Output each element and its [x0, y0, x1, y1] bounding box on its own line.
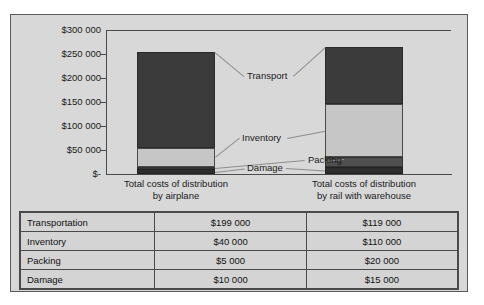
table-cell-rail-cost: $20 000 [306, 251, 457, 270]
table-row: Damage$10 000$15 000 [21, 270, 458, 289]
y-tick-label: $150 000 [23, 97, 101, 106]
table-row: Inventory$40 000$110 000 [21, 232, 458, 251]
callout-inventory: Inventory [242, 133, 281, 143]
bar-segment-packing [137, 167, 215, 169]
callout-damage: Damage [247, 163, 283, 173]
bar-segment-inventory [325, 104, 403, 157]
bar-column [325, 30, 403, 174]
table-cell-airplane-cost: $10 000 [155, 270, 306, 289]
stacked-bar-chart: $300 000$250 000$200 000$150 000$100 000… [11, 15, 469, 201]
table-row: Packing$5 000$20 000 [21, 251, 458, 270]
bar-column [137, 30, 215, 174]
table-cell-rail-cost: $110 000 [306, 232, 457, 251]
callout-transport: Transport [247, 71, 287, 81]
category-label-airplane-line1: Total costs of distribution [91, 178, 261, 190]
category-label-rail: Total costs of distribution by rail with… [279, 178, 449, 202]
bar-segment-damage [137, 169, 215, 174]
table-cell-rail-cost: $15 000 [306, 270, 457, 289]
chart-figure-panel: $300 000$250 000$200 000$150 000$100 000… [10, 14, 468, 292]
table-row: Transportation$199 000$119 000 [21, 213, 458, 232]
callout-packing: Packing [308, 155, 342, 165]
table-cell-airplane-cost: $40 000 [155, 232, 306, 251]
y-tick-label: $50 000 [23, 145, 101, 154]
y-tick-label: $100 000 [23, 121, 101, 130]
bar-segment-damage [325, 167, 403, 174]
y-tick-label: $- [23, 169, 101, 178]
table-cell-category: Damage [21, 270, 155, 289]
category-label-rail-line2: by rail with warehouse [279, 190, 449, 202]
bar-segment-transportation [325, 47, 403, 104]
table-cell-category: Inventory [21, 232, 155, 251]
table-cell-airplane-cost: $5 000 [155, 251, 306, 270]
category-label-airplane: Total costs of distribution by airplane [91, 178, 261, 202]
bar-segment-transportation [137, 52, 215, 148]
category-label-rail-line1: Total costs of distribution [279, 178, 449, 190]
y-tick-label: $250 000 [23, 49, 101, 58]
category-label-airplane-line2: by airplane [91, 190, 261, 202]
table-cell-category: Packing [21, 251, 155, 270]
cost-breakdown-table: Transportation$199 000$119 000Inventory$… [19, 211, 459, 290]
x-axis-baseline [106, 174, 452, 175]
table-cell-category: Transportation [21, 213, 155, 232]
bar-segment-inventory [137, 148, 215, 167]
screenshot-root: $300 000$250 000$200 000$150 000$100 000… [0, 0, 484, 305]
y-tick-label: $200 000 [23, 73, 101, 82]
table-cell-airplane-cost: $199 000 [155, 213, 306, 232]
table-cell-rail-cost: $119 000 [306, 213, 457, 232]
y-axis: $300 000$250 000$200 000$150 000$100 000… [11, 15, 101, 201]
y-tick-label: $300 000 [23, 25, 101, 34]
